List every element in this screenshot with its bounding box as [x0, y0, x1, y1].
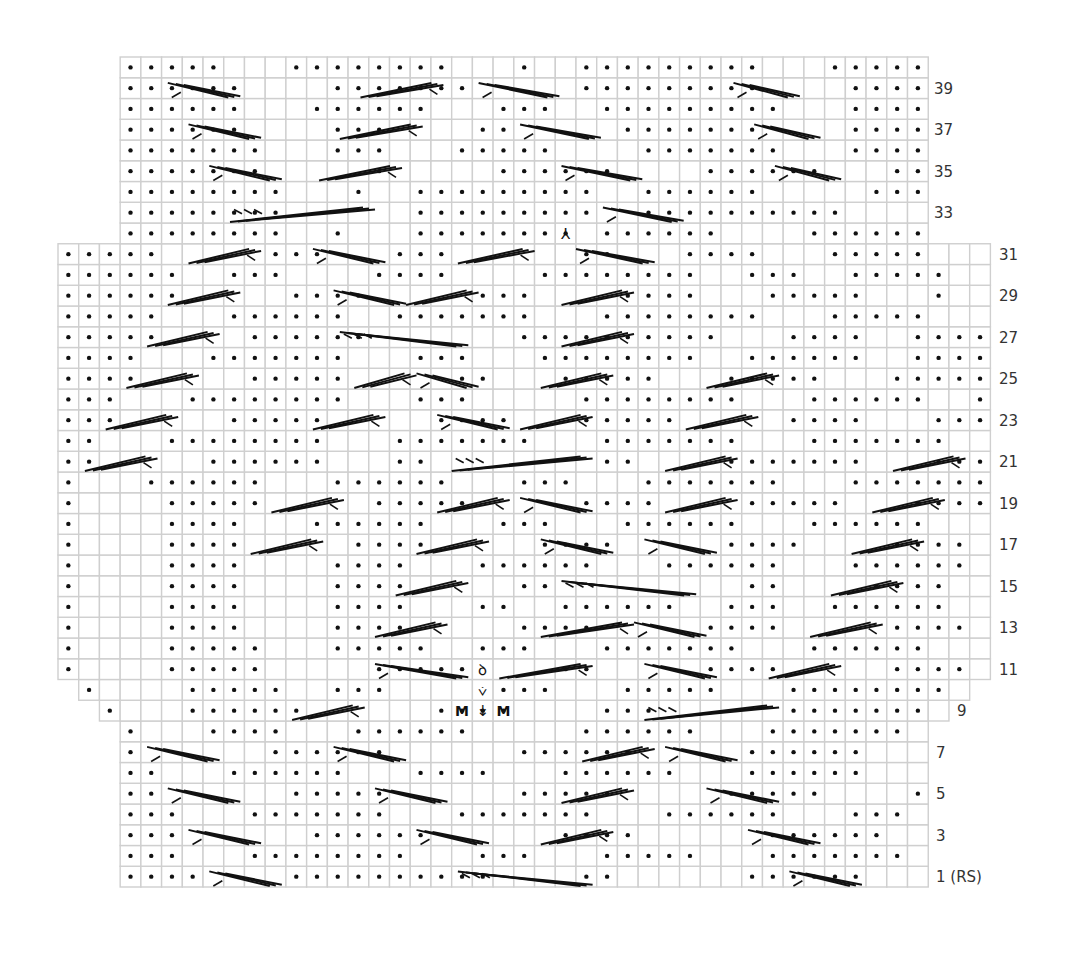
purl-dot — [626, 708, 630, 712]
purl-dot — [211, 169, 215, 173]
grid-cell — [825, 534, 846, 555]
grid-cell — [555, 680, 576, 701]
purl-dot — [232, 397, 236, 401]
purl-dot — [481, 148, 485, 152]
purl-dot — [791, 273, 795, 277]
purl-dot — [771, 169, 775, 173]
grid-cell — [99, 638, 120, 659]
purl-dot — [398, 625, 402, 629]
purl-dot — [522, 646, 526, 650]
purl-dot — [439, 729, 443, 733]
purl-dot — [646, 314, 650, 318]
purl-dot — [916, 480, 920, 484]
purl-dot — [895, 812, 899, 816]
purl-dot — [170, 874, 174, 878]
purl-dot — [522, 65, 526, 69]
purl-dot — [336, 771, 340, 775]
purl-dot — [688, 107, 692, 111]
purl-dot — [377, 563, 381, 567]
purl-dot — [729, 127, 733, 131]
grid-cell — [348, 306, 369, 327]
purl-dot — [708, 480, 712, 484]
purl-dot — [232, 190, 236, 194]
grid-cell — [700, 763, 721, 784]
purl-dot — [501, 127, 505, 131]
row-number-label: 23 — [999, 411, 1018, 431]
grid-cell — [410, 368, 431, 389]
purl-dot — [688, 190, 692, 194]
purl-dot — [605, 708, 609, 712]
row-number-label: 11 — [999, 660, 1018, 680]
yarn-over-decrease-symbol: ⩒ — [478, 682, 487, 700]
purl-dot — [563, 563, 567, 567]
grid-cell — [659, 783, 680, 804]
purl-dot — [253, 397, 257, 401]
purl-dot — [874, 522, 878, 526]
grid-cell — [700, 285, 721, 306]
purl-dot — [895, 729, 899, 733]
grid-cell — [286, 472, 307, 493]
purl-dot — [584, 771, 588, 775]
purl-dot — [936, 667, 940, 671]
purl-dot — [377, 812, 381, 816]
purl-dot — [398, 522, 402, 526]
purl-dot — [812, 771, 816, 775]
grid-cell — [79, 555, 100, 576]
grid-cell — [224, 368, 245, 389]
purl-dot — [356, 833, 360, 837]
grid-cell — [431, 99, 452, 120]
purl-dot — [584, 791, 588, 795]
purl-dot — [356, 812, 360, 816]
purl-dot — [170, 293, 174, 297]
grid-cell — [493, 721, 514, 742]
purl-dot — [605, 771, 609, 775]
purl-dot — [190, 646, 194, 650]
grid-cell — [99, 472, 120, 493]
grid-cell — [120, 597, 141, 618]
purl-dot — [791, 335, 795, 339]
purl-dot — [439, 480, 443, 484]
purl-dot — [626, 439, 630, 443]
purl-dot — [874, 439, 878, 443]
grid-cell — [762, 306, 783, 327]
purl-dot — [605, 605, 609, 609]
purl-dot — [294, 459, 298, 463]
purl-dot — [501, 605, 505, 609]
purl-dot — [895, 65, 899, 69]
purl-dot — [646, 854, 650, 858]
row-number-label: 19 — [999, 494, 1018, 514]
purl-dot — [978, 459, 982, 463]
purl-dot — [481, 439, 485, 443]
grid-cell — [452, 514, 473, 535]
purl-dot — [812, 688, 816, 692]
purl-dot — [356, 625, 360, 629]
purl-dot — [771, 148, 775, 152]
purl-dot — [232, 439, 236, 443]
grid-cell — [597, 555, 618, 576]
grid-cell — [182, 410, 203, 431]
purl-dot — [605, 314, 609, 318]
purl-dot — [563, 169, 567, 173]
purl-dot — [750, 771, 754, 775]
purl-dot — [771, 854, 775, 858]
purl-dot — [584, 335, 588, 339]
grid-cell — [535, 763, 556, 784]
grid-cell — [369, 182, 390, 203]
grid-cell — [327, 721, 348, 742]
purl-dot — [315, 833, 319, 837]
grid-cell — [431, 680, 452, 701]
purl-dot — [543, 107, 547, 111]
purl-dot — [812, 459, 816, 463]
purl-dot — [211, 65, 215, 69]
purl-dot — [315, 854, 319, 858]
purl-dot — [149, 148, 153, 152]
purl-dot — [874, 812, 878, 816]
purl-dot — [543, 791, 547, 795]
purl-dot — [833, 418, 837, 422]
purl-dot — [688, 252, 692, 256]
purl-dot — [522, 480, 526, 484]
purl-dot — [791, 376, 795, 380]
grid-cell — [680, 700, 701, 721]
purl-dot — [978, 397, 982, 401]
grid-cell — [535, 306, 556, 327]
